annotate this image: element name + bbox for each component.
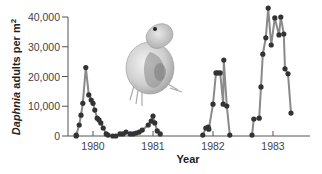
daphnia-illustration: [126, 24, 182, 106]
y-tick-label: 0: [54, 130, 60, 142]
data-point: [92, 108, 97, 113]
data-point: [257, 116, 262, 121]
data-point: [206, 127, 211, 132]
data-point: [98, 120, 103, 125]
data-point: [83, 65, 88, 70]
x-tick-label: 1981: [141, 140, 165, 152]
data-point: [200, 133, 205, 138]
data-point: [281, 31, 286, 36]
data-point: [152, 120, 157, 125]
data-point: [90, 101, 95, 106]
x-tick-label: 1982: [201, 140, 225, 152]
y-tick-label: 10,000: [28, 100, 60, 112]
y-tick-label: 30,000: [28, 41, 60, 53]
x-tick-label: 1980: [81, 140, 105, 152]
data-point: [221, 58, 226, 63]
x-tick-label: 1983: [261, 140, 285, 152]
y-tick-label: 40,000: [28, 11, 60, 23]
data-point: [272, 15, 277, 20]
data-series: [74, 6, 294, 139]
data-point: [101, 125, 106, 130]
data-point: [140, 128, 145, 133]
data-point: [224, 103, 229, 108]
data-point: [158, 131, 163, 136]
data-point: [249, 133, 254, 138]
x-axis-label: Year: [176, 153, 200, 165]
data-point: [288, 111, 293, 116]
y-tick-label: 20,000: [28, 71, 60, 83]
data-point: [276, 32, 281, 37]
y-axis-label: Daphnia adults per m2: [9, 18, 22, 135]
data-point: [263, 35, 268, 40]
data-point: [210, 102, 215, 107]
data-point: [269, 42, 274, 47]
data-point: [80, 101, 85, 106]
data-point: [74, 133, 79, 138]
data-point: [218, 70, 223, 75]
data-point: [285, 71, 290, 76]
data-point: [282, 66, 287, 71]
data-point: [77, 122, 82, 127]
data-point: [105, 133, 110, 138]
population-chart: 010,00020,00030,00040,000 19801981198219…: [0, 0, 322, 174]
data-point: [86, 92, 91, 97]
y-axis: 010,00020,00030,00040,000: [28, 11, 68, 142]
data-point: [258, 84, 263, 89]
data-point: [278, 14, 283, 19]
data-point: [260, 52, 265, 57]
data-point: [78, 113, 83, 118]
data-point: [150, 114, 155, 119]
data-point: [227, 133, 232, 138]
data-point: [266, 6, 271, 11]
data-point: [251, 116, 256, 121]
